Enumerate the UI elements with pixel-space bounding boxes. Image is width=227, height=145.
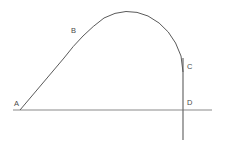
label-point-d: D — [187, 98, 193, 107]
diagram-canvas: A B C D — [0, 0, 227, 145]
label-point-b: B — [71, 26, 76, 35]
geometry-diagram: A B C D — [0, 0, 227, 145]
label-point-a: A — [14, 99, 19, 108]
curve-abc — [20, 11, 183, 110]
label-point-c: C — [187, 62, 193, 71]
